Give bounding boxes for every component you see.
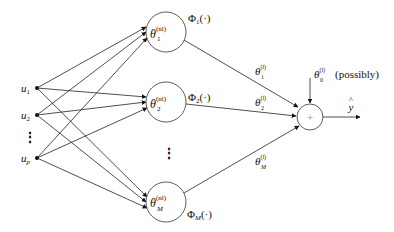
plus-icon: + — [307, 111, 313, 123]
hidden-node-2: θ(nl) 2 Φ2(·) — [146, 82, 211, 122]
input-dot-up — [35, 156, 39, 160]
input-dot-u1 — [35, 86, 39, 90]
bias-note: (possibly) — [335, 68, 379, 81]
input-layer: u1 u2 up ⋮ — [21, 82, 39, 166]
hidden-node-theta-sub: 2 — [157, 105, 161, 113]
phi-label-2: Φ2(·) — [188, 91, 211, 105]
edge-u2-h1 — [37, 32, 146, 115]
bias-sub: 0 — [320, 77, 323, 83]
input-label-u1: u1 — [21, 82, 31, 96]
input-ellipsis: ⋮ — [23, 130, 37, 145]
edge-up-h2 — [37, 108, 147, 158]
neural-network-diagram: u1 u2 up ⋮ θ(nl) 1 Φ1(·) θ(nl) 2 Φ2(·) ⋮… — [0, 0, 394, 232]
input-label-u2: u2 — [21, 109, 31, 123]
hidden-output-edges — [184, 40, 360, 193]
phi-label-M: ΦM(·) — [187, 208, 212, 222]
hidden-node-1: θ(nl) 1 Φ1(·) — [146, 12, 211, 52]
edge-up-hM — [37, 158, 147, 208]
edge-u2-hM — [37, 115, 146, 202]
input-label-up: up — [21, 152, 31, 166]
hidden-node-theta-sub: 1 — [157, 35, 161, 43]
output-label: ^ y — [348, 96, 354, 113]
edge-u1-hM — [37, 88, 147, 197]
weight-label-1-sub: 1 — [261, 74, 264, 80]
edge-hM-sum — [184, 126, 299, 193]
phi-label-1: Φ1(·) — [188, 12, 211, 26]
input-hidden-edges — [37, 27, 147, 208]
hidden-node-M: θ(nl) M ΦM(·) — [146, 182, 212, 222]
hidden-node-theta-sub: M — [156, 205, 164, 213]
input-dot-u2 — [35, 113, 39, 117]
weight-label-2-sub: 2 — [261, 105, 264, 111]
weight-label-M-sub: M — [260, 164, 267, 170]
hidden-ellipsis: ⋮ — [162, 146, 176, 161]
edge-h2-sum — [186, 104, 296, 116]
edge-u1-h2 — [37, 88, 146, 97]
output-weight-labels: θ(l) 1 θ(l) 2 θ(l) M — [255, 64, 267, 170]
sum-node: + — [297, 104, 323, 130]
output-y: y — [348, 101, 354, 113]
edge-up-h1 — [37, 38, 147, 158]
bias-label: θ(l) 0 (possibly) — [314, 67, 379, 83]
